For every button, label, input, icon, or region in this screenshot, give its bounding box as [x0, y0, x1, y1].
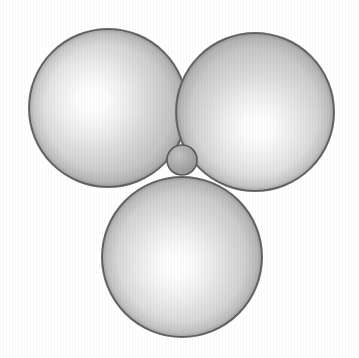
sphere-top-left-rim-shading [29, 29, 187, 187]
sphere-interstitial-body [167, 145, 197, 175]
sphere-top-right-rim-shading [176, 33, 334, 191]
sphere-top-left [29, 29, 187, 187]
sphere-bottom-rim-shading [102, 177, 262, 337]
sphere-interstitial [167, 145, 197, 175]
sphere-top-right [176, 33, 334, 191]
sphere-bottom [102, 177, 262, 337]
sphere-diagram-canvas: Three tangent large spheres with a small… [0, 0, 359, 358]
sphere-packing-figure: Three tangent large spheres with a small… [0, 0, 359, 358]
